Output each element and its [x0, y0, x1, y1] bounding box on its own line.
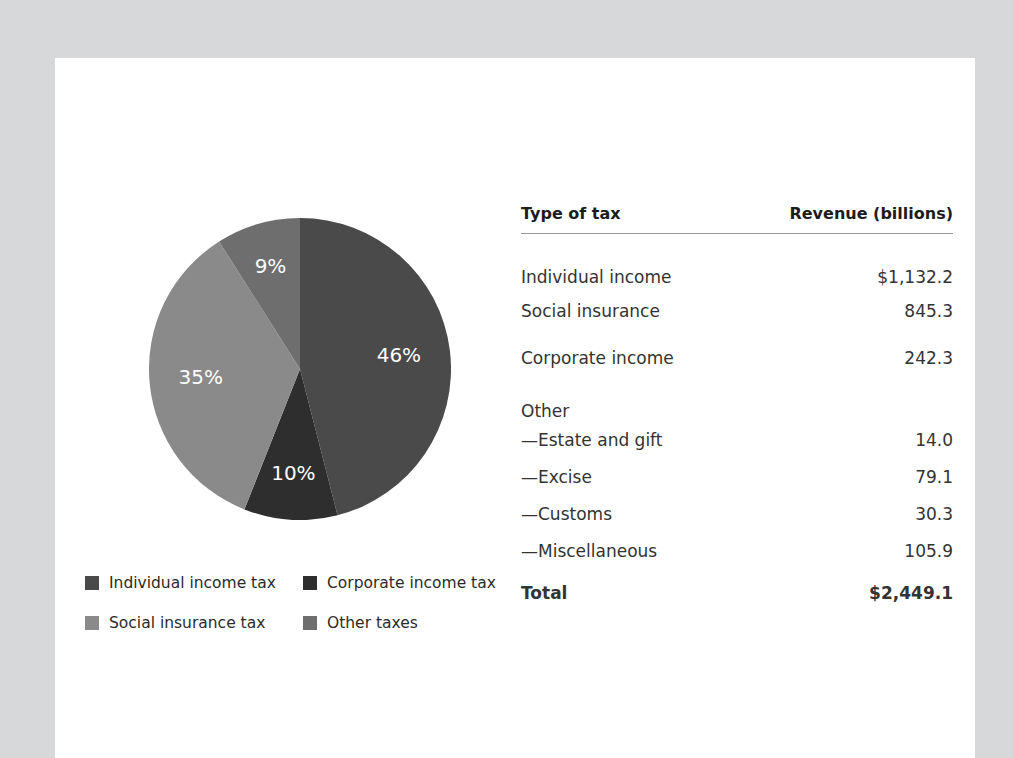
legend-item-social-insurance-tax[interactable]: Social insurance tax [85, 614, 303, 632]
row-label: —Customs [521, 495, 730, 532]
table-row: Corporate income242.3 [521, 334, 953, 381]
tax-revenue-table: Type of tax Revenue (billions) Individua… [521, 204, 953, 617]
row-label: Corporate income [521, 334, 730, 381]
legend-item-individual-income-tax[interactable]: Individual income tax [85, 574, 303, 592]
legend-row: Social insurance tax Other taxes [85, 603, 515, 643]
row-value: $1,132.2 [730, 234, 953, 288]
total-value: $2,449.1 [730, 569, 953, 617]
table-body: Individual income$1,132.2Social insuranc… [521, 234, 953, 570]
table-subrow: —Miscellaneous105.9 [521, 532, 953, 569]
legend-swatch-icon [303, 616, 317, 630]
row-label: —Estate and gift [521, 421, 730, 458]
row-label: —Excise [521, 458, 730, 495]
row-value: 105.9 [730, 532, 953, 569]
table-total-row: Total $2,449.1 [521, 569, 953, 617]
pie-chart-svg: 46%10%35%9% [149, 218, 451, 520]
row-label: Individual income [521, 234, 730, 288]
legend-swatch-icon [303, 576, 317, 590]
legend-label: Corporate income tax [327, 574, 496, 592]
tax-revenue-table-block: Type of tax Revenue (billions) Individua… [521, 204, 953, 617]
row-value: 79.1 [730, 458, 953, 495]
column-header-revenue: Revenue (billions) [730, 204, 953, 234]
table-row: Individual income$1,132.2 [521, 234, 953, 288]
row-value: 845.3 [730, 287, 953, 334]
total-label: Total [521, 569, 730, 617]
legend-label: Social insurance tax [109, 614, 265, 632]
table-header-row: Type of tax Revenue (billions) [521, 204, 953, 234]
table-subrow: —Estate and gift14.0 [521, 421, 953, 458]
chart-legend: Individual income tax Corporate income t… [85, 563, 515, 643]
legend-swatch-icon [85, 576, 99, 590]
pie-slice-label: 9% [255, 254, 287, 278]
row-value: 30.3 [730, 495, 953, 532]
legend-item-corporate-income-tax[interactable]: Corporate income tax [303, 574, 515, 592]
pie-chart: 46%10%35%9% [149, 218, 451, 520]
row-label: —Miscellaneous [521, 532, 730, 569]
table-header: Type of tax Revenue (billions) [521, 204, 953, 234]
legend-label: Other taxes [327, 614, 418, 632]
figure-card: 46%10%35%9% Individual income tax Corpor… [55, 58, 975, 758]
table-row: Social insurance845.3 [521, 287, 953, 334]
column-header-type-of-tax: Type of tax [521, 204, 730, 234]
pie-slice-label: 35% [179, 365, 223, 389]
table-subrow: —Customs30.3 [521, 495, 953, 532]
pie-slice-label: 46% [377, 343, 421, 367]
table-footer: Total $2,449.1 [521, 569, 953, 617]
legend-item-other-taxes[interactable]: Other taxes [303, 614, 515, 632]
legend-row: Individual income tax Corporate income t… [85, 563, 515, 603]
table-group-row: Other [521, 381, 953, 421]
legend-label: Individual income tax [109, 574, 276, 592]
row-value [730, 381, 953, 421]
row-label: Social insurance [521, 287, 730, 334]
row-value: 14.0 [730, 421, 953, 458]
pie-slice-label: 10% [271, 461, 315, 485]
pie-chart-figure: 46%10%35%9% Individual income tax Corpor… [55, 58, 525, 678]
legend-swatch-icon [85, 616, 99, 630]
row-value: 242.3 [730, 334, 953, 381]
row-label: Other [521, 381, 730, 421]
table-subrow: —Excise79.1 [521, 458, 953, 495]
